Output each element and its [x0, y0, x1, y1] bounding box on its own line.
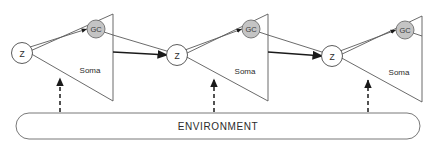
gc-output-line-1: [113, 35, 170, 52]
diagram-canvas: GC Z Soma GC Z Soma: [0, 0, 436, 152]
gc-node-label-2: GC: [245, 25, 257, 34]
soma-label-3: Soma: [389, 68, 410, 77]
soma-unit-2: GC Z Soma: [167, 14, 326, 112]
diagram-svg: GC Z Soma GC Z Soma: [0, 0, 436, 152]
z-node-label-3: Z: [329, 52, 334, 62]
soma-output-arrow-2: [268, 52, 323, 56]
environment-label: ENVIRONMENT: [178, 121, 259, 132]
z-to-gc-arrow-3: [340, 30, 396, 51]
soma-unit-1: GC Z Soma: [12, 14, 171, 112]
environment-block[interactable]: ENVIRONMENT: [16, 113, 420, 139]
z-to-gc-arrow-2: [185, 29, 242, 50]
z-node-label-1: Z: [19, 49, 24, 59]
gc-output-line-2: [268, 35, 325, 53]
soma-label-2: Soma: [235, 67, 256, 76]
gc-edge-link-3: [413, 33, 422, 36]
soma-label-1: Soma: [80, 66, 101, 75]
gc-node-label-1: GC: [90, 25, 102, 34]
soma-output-arrow-1: [113, 52, 168, 55]
gc-edge-link-1: [104, 32, 113, 35]
soma-unit-3: GC Z Soma: [322, 16, 423, 112]
gc-node-label-3: GC: [399, 26, 411, 35]
z-node-label-2: Z: [174, 51, 179, 61]
z-to-gc-arrow-1: [30, 29, 87, 47]
gc-edge-link-2: [259, 32, 268, 35]
